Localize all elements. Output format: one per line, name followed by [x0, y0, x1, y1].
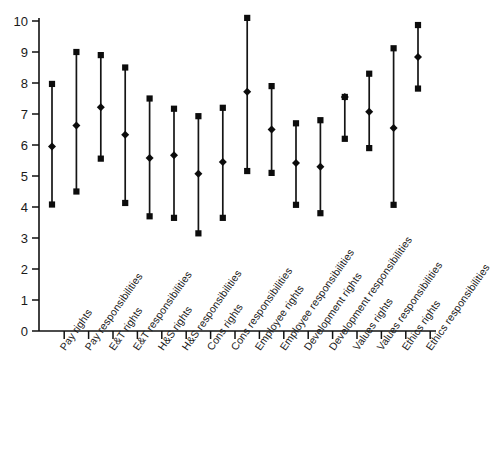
mean-marker: [121, 131, 129, 139]
mean-marker: [219, 158, 227, 166]
lower-cap-marker: [171, 215, 177, 221]
mean-marker: [414, 53, 422, 61]
lower-cap-marker: [122, 200, 128, 206]
data-series-group: [48, 15, 422, 237]
mean-marker: [170, 151, 178, 159]
upper-cap-marker: [98, 52, 104, 58]
y-tick-label: 5: [21, 169, 28, 184]
upper-cap-marker: [269, 83, 275, 89]
range-marker-group: [316, 117, 324, 216]
lower-cap-marker: [98, 156, 104, 162]
y-tick-label: 0: [21, 324, 28, 339]
y-tick-label: 9: [21, 45, 28, 60]
upper-cap-marker: [171, 106, 177, 112]
upper-cap-marker: [415, 22, 421, 28]
y-tick-label: 10: [14, 14, 28, 29]
y-tick-label: 2: [21, 262, 28, 277]
range-marker-group: [170, 106, 178, 221]
mean-marker: [390, 124, 398, 132]
mean-marker: [365, 108, 373, 116]
mean-marker: [292, 159, 300, 167]
range-marker-group: [390, 45, 398, 208]
upper-cap-marker: [122, 64, 128, 70]
y-axis-tick-labels: 012345678910: [14, 14, 28, 339]
y-tick-label: 1: [21, 293, 28, 308]
lower-cap-marker: [391, 202, 397, 208]
mean-marker: [243, 88, 251, 96]
y-axis-ticks: [32, 21, 39, 331]
mean-marker: [268, 126, 276, 134]
upper-cap-marker: [391, 45, 397, 51]
mean-marker: [97, 103, 105, 111]
y-tick-label: 8: [21, 76, 28, 91]
range-marker-group: [48, 81, 56, 208]
upper-cap-marker: [147, 95, 153, 101]
range-marker-group: [121, 64, 129, 206]
y-tick-label: 4: [21, 200, 28, 215]
range-marker-group: [72, 49, 80, 195]
lower-cap-marker: [147, 213, 153, 219]
mean-marker: [48, 143, 56, 151]
range-marker-group: [365, 71, 373, 152]
y-tick-label: 6: [21, 138, 28, 153]
lower-cap-marker: [366, 145, 372, 151]
lower-cap-marker: [244, 168, 250, 174]
lower-cap-marker: [49, 201, 55, 207]
lower-cap-marker: [73, 188, 79, 194]
range-marker-group: [194, 113, 202, 236]
range-marker-group: [97, 52, 105, 162]
lower-cap-marker: [293, 202, 299, 208]
range-marker-group: [243, 15, 251, 174]
range-marker-group: [146, 95, 154, 219]
range-marker-group: [292, 120, 300, 208]
upper-cap-marker: [293, 120, 299, 126]
upper-cap-marker: [195, 113, 201, 119]
upper-cap-marker: [49, 81, 55, 87]
lower-cap-marker: [342, 136, 348, 142]
mean-marker: [194, 170, 202, 178]
lower-cap-marker: [195, 230, 201, 236]
range-marker-group: [268, 83, 276, 176]
upper-cap-marker: [73, 49, 79, 55]
y-tick-label: 3: [21, 231, 28, 246]
upper-cap-marker: [244, 15, 250, 21]
range-marker-group: [414, 22, 422, 92]
range-marker-group: [219, 105, 227, 221]
lower-cap-marker: [317, 210, 323, 216]
mean-marker: [316, 163, 324, 171]
range-marker-group: [341, 93, 349, 142]
upper-cap-marker: [317, 117, 323, 123]
lower-cap-marker: [220, 215, 226, 221]
lower-cap-marker: [415, 85, 421, 91]
mean-marker: [72, 121, 80, 129]
y-tick-label: 7: [21, 107, 28, 122]
lower-cap-marker: [269, 170, 275, 176]
upper-cap-marker: [220, 105, 226, 111]
upper-cap-marker: [366, 71, 372, 77]
mean-marker: [146, 154, 154, 162]
